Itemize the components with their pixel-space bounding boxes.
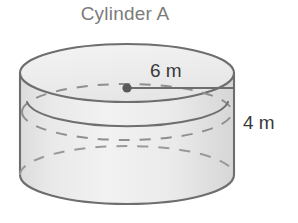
center-point-dot	[122, 83, 131, 92]
cylinder-top-face	[20, 44, 234, 102]
cylinder-figure: Cylinder A	[0, 0, 298, 223]
radius-dimension-label: 6 m	[150, 60, 182, 82]
height-dimension-label: 4 m	[243, 112, 275, 134]
